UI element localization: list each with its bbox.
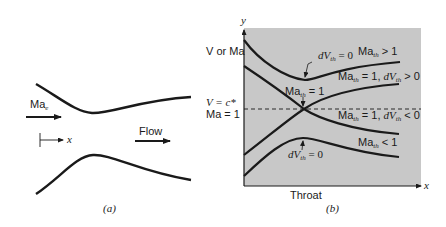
x-axis-label-b: x (423, 179, 429, 191)
nozzle-upper-wall (36, 84, 191, 113)
caption-b: (b) (326, 202, 339, 215)
label-v-or-ma: V or Ma (206, 45, 245, 57)
label-ma-equals-1: Ma = 1 (206, 108, 240, 120)
label-dv-zero-top: dVth = 0 (318, 49, 353, 63)
label-ma1-dv-neg: Math = 1, dVth < 0 (338, 109, 420, 123)
label-dv-zero-bot: dVth = 0 (288, 148, 323, 162)
nozzle-flow-figure: Mae x Flow (a) y x dVth = 0 Math > 1 (0, 0, 446, 227)
inlet-mach-label: Mae (30, 98, 48, 112)
x-axis-label-a: x (66, 133, 72, 145)
flow-label: Flow (139, 125, 162, 137)
nozzle-lower-wall (36, 155, 191, 194)
panel-b-plot: y x dVth = 0 Math > 1 Math = 1, dVth > 0… (206, 14, 429, 215)
label-v-equals-cstar: V = c* (206, 96, 236, 108)
y-axis-label: y (240, 14, 246, 26)
caption-a: (a) (103, 202, 116, 215)
label-ma1-dv-pos: Math = 1, dVth > 0 (338, 70, 420, 84)
throat-label: Throat (290, 189, 322, 201)
panel-a-nozzle: Mae x Flow (a) (26, 84, 191, 215)
